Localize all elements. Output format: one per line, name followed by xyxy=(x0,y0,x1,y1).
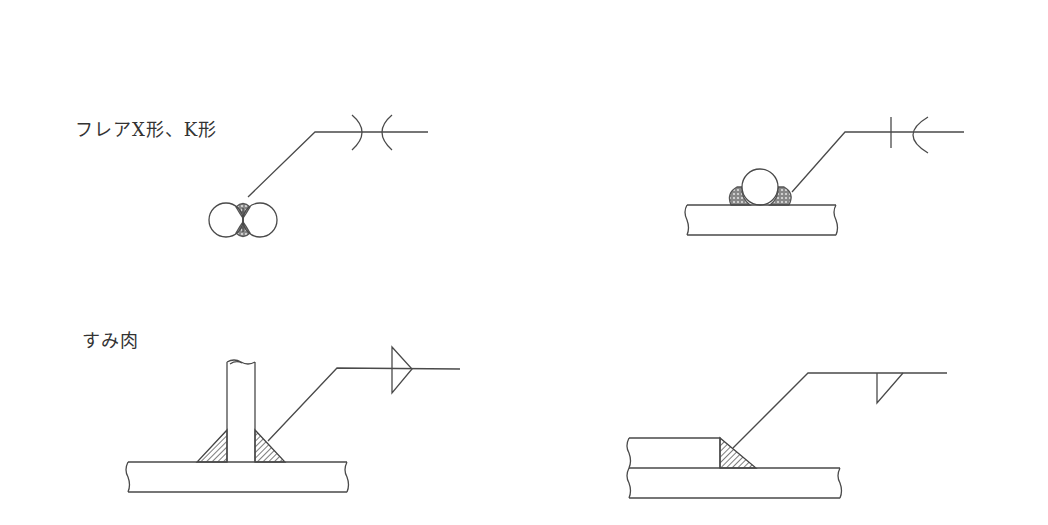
round-bar-right xyxy=(243,203,277,237)
leader-line xyxy=(733,373,947,448)
weld-symbol-diagram xyxy=(0,0,1048,525)
round-bar xyxy=(742,169,778,205)
round-bar-left xyxy=(209,203,243,237)
base-plate xyxy=(126,462,349,492)
fillet-symbol-both-sides-icon xyxy=(392,347,412,393)
fillet-weld-left xyxy=(197,430,227,462)
fillet-lap-figure xyxy=(627,373,947,498)
fillet-t-figure xyxy=(126,347,460,492)
base-plate xyxy=(685,205,838,235)
fillet-weld-right xyxy=(255,430,285,462)
leader-line xyxy=(792,132,964,192)
vertical-member xyxy=(227,360,255,462)
leader-line xyxy=(268,368,460,441)
upper-plate xyxy=(627,438,720,468)
fillet-symbol-arrow-side-icon xyxy=(877,373,903,403)
leader-line xyxy=(248,132,428,197)
lower-plate xyxy=(627,468,842,498)
flare-x-figure xyxy=(209,115,428,237)
flare-arc-icon xyxy=(913,117,928,153)
flare-k-figure xyxy=(685,117,964,235)
